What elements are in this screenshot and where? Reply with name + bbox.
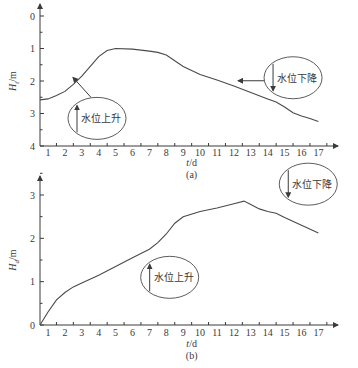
x-tick-label: 7 (147, 147, 152, 158)
x-tick-label: 3 (79, 327, 84, 338)
x-tick-label: 12 (229, 327, 239, 338)
annotation-rise: 水位上升 (141, 256, 199, 298)
x-axis-label: t/d (186, 157, 197, 168)
x-tick-label: 16 (297, 327, 307, 338)
figure: 123456789101112131415161701234Ht/mt/d(a)… (0, 0, 358, 368)
x-tick-label: 6 (130, 147, 135, 158)
y-tick-label: 3 (30, 108, 35, 119)
x-tick-label: 1 (46, 327, 51, 338)
x-tick-label: 5 (113, 147, 118, 158)
y-tick-label: 4 (30, 141, 35, 152)
chart-a: 123456789101112131415161701234Ht/mt/d(a)… (7, 4, 338, 181)
x-tick-label: 14 (263, 327, 273, 338)
panel-caption: (b) (186, 350, 198, 362)
y-tick-label: 3 (30, 190, 35, 201)
annotation-text: 水位上升 (81, 112, 121, 124)
x-tick-label: 14 (263, 147, 273, 158)
panel-caption: (a) (186, 169, 197, 181)
x-tick-label: 4 (96, 147, 101, 158)
x-tick-label: 15 (280, 147, 290, 158)
x-tick-label: 8 (164, 147, 169, 158)
y-tick-label: 2 (30, 76, 35, 87)
annotation-text: 水位下降 (292, 178, 332, 190)
annotation-fall: 水位下降 (264, 57, 322, 99)
x-tick-label: 16 (297, 147, 307, 158)
x-tick-label: 11 (212, 327, 222, 338)
x-tick-label: 13 (246, 147, 256, 158)
x-tick-label: 17 (313, 147, 323, 158)
annotation-rise: 水位上升 (68, 97, 126, 139)
x-tick-label: 1 (46, 147, 51, 158)
x-tick-label: 15 (280, 327, 290, 338)
x-axis-label: t/d (186, 338, 197, 349)
x-tick-label: 2 (62, 147, 67, 158)
y-tick-label: 1 (30, 43, 35, 54)
x-tick-label: 10 (195, 327, 205, 338)
x-tick-label: 4 (96, 327, 101, 338)
x-tick-label: 12 (229, 147, 239, 158)
x-tick-label: 9 (181, 147, 186, 158)
pointer-arrow-rise (73, 77, 91, 97)
x-tick-label: 5 (113, 327, 118, 338)
y-axis-label: Ht/m (7, 71, 21, 92)
annotation-text: 水位上升 (154, 271, 194, 283)
x-tick-label: 3 (79, 147, 84, 158)
x-tick-label: 17 (313, 327, 323, 338)
y-tick-label: 1 (30, 276, 35, 287)
x-tick-label: 9 (181, 327, 186, 338)
annotation-text: 水位下降 (277, 72, 317, 84)
x-tick-label: 11 (212, 147, 222, 158)
data-line (40, 201, 318, 325)
x-tick-label: 7 (147, 327, 152, 338)
y-tick-label: 0 (30, 320, 35, 331)
y-axis-label: Hd/m (7, 249, 21, 272)
y-tick-label: 0 (30, 11, 35, 22)
data-line (40, 49, 318, 122)
chart-b: 12345678910111213141516170123Hd/mt/d(b)水… (7, 163, 338, 362)
x-tick-label: 6 (130, 327, 135, 338)
y-tick-label: 2 (30, 233, 35, 244)
x-tick-label: 13 (246, 327, 256, 338)
x-tick-label: 8 (164, 327, 169, 338)
annotation-fall: 水位下降 (279, 163, 337, 205)
x-tick-label: 2 (62, 327, 67, 338)
